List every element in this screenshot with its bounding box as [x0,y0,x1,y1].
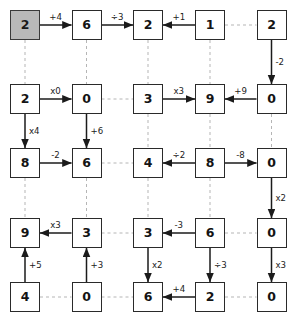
node-r4c5[interactable]: 0 [257,218,287,248]
edge-label-r5c4-r5c3: +4 [173,285,186,294]
node-value: 2 [21,93,30,106]
edge-label-r4c4-r5c4: ÷3 [214,261,227,270]
edge-label-r5c2-r4c2: +3 [91,261,104,270]
node-r5c3[interactable]: 6 [133,282,163,312]
node-value: 0 [267,157,276,170]
edge-label-r1c2-r1c3: ÷3 [111,13,124,22]
node-value: 6 [82,157,91,170]
edge-label-r3c4-r3c3: ÷2 [173,151,186,160]
node-r4c1[interactable]: 9 [10,218,40,248]
edge-label-r4c5-r5c5: x3 [276,261,287,270]
node-r2c1[interactable]: 2 [10,84,40,114]
node-value: 0 [82,93,91,106]
edge-label-r2c1-r3c1: x4 [29,127,40,136]
node-value: 6 [82,19,91,32]
node-value: 8 [21,157,30,170]
node-r1c5[interactable]: 2 [257,10,287,40]
node-r2c4[interactable]: 9 [195,84,225,114]
node-value: 6 [206,227,215,240]
edge-label-r3c1-r3c2: -2 [51,151,60,160]
edge-label-r3c5-r4c5: x2 [276,194,287,203]
node-value: 2 [21,19,30,32]
node-value: 2 [267,19,276,32]
node-r1c2[interactable]: 6 [72,10,102,40]
node-r3c3[interactable]: 4 [133,148,163,178]
node-r2c5[interactable]: 0 [257,84,287,114]
node-value: 2 [144,19,153,32]
edge-label-r4c4-r4c3: -3 [175,221,184,230]
node-value: 0 [82,291,91,304]
edge-label-r5c1-r4c1: +5 [29,261,42,270]
node-value: 0 [267,227,276,240]
edge-label-r1c1-r1c2: +4 [49,13,62,22]
node-value: 4 [21,291,30,304]
edge-label-r2c3-r2c4: x3 [174,87,185,96]
node-r3c5[interactable]: 0 [257,148,287,178]
edge-label-r2c5-r2c4: +9 [234,87,247,96]
node-r4c3[interactable]: 3 [133,218,163,248]
node-r4c4[interactable]: 6 [195,218,225,248]
node-r3c4[interactable]: 8 [195,148,225,178]
diagram-canvas: 2621220390864809336040620 +4÷3+1x0x3+9-2… [0,0,298,324]
node-value: 3 [82,227,91,240]
node-value: 8 [206,157,215,170]
node-value: 4 [144,157,153,170]
node-r3c2[interactable]: 6 [72,148,102,178]
node-value: 2 [206,291,215,304]
node-value: 9 [206,93,215,106]
node-value: 0 [267,93,276,106]
node-r3c1[interactable]: 8 [10,148,40,178]
edge-label-r2c1-r2c2: x0 [50,87,61,96]
node-r5c2[interactable]: 0 [72,282,102,312]
node-r2c2[interactable]: 0 [72,84,102,114]
node-r1c1[interactable]: 2 [10,10,40,40]
node-r2c3[interactable]: 3 [133,84,163,114]
node-r5c5[interactable]: 0 [257,282,287,312]
edge-label-r4c2-r4c1: x3 [50,221,61,230]
node-r5c4[interactable]: 2 [195,282,225,312]
node-value: 3 [144,93,153,106]
node-value: 6 [144,291,153,304]
node-r1c4[interactable]: 1 [195,10,225,40]
node-r5c1[interactable]: 4 [10,282,40,312]
node-value: 3 [144,227,153,240]
node-value: 1 [206,19,215,32]
node-r4c2[interactable]: 3 [72,218,102,248]
edge-label-r4c3-r5c3: x2 [152,261,163,270]
edge-label-r1c4-r1c3: +1 [173,13,186,22]
edge-label-r2c2-r3c2: +6 [91,127,104,136]
edge-label-r3c4-r3c5: -8 [236,151,245,160]
node-value: 9 [21,227,30,240]
node-value: 0 [267,291,276,304]
edge-label-r1c5-r2c5: -2 [276,58,285,67]
node-r1c3[interactable]: 2 [133,10,163,40]
